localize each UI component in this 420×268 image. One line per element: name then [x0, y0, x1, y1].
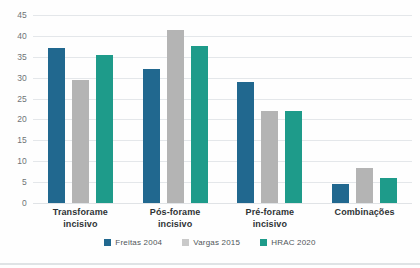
- y-axis-tick-35: 35: [17, 52, 27, 62]
- x-label-line-1: Combinações: [335, 207, 395, 217]
- x-axis-label-pre-forame-incisivo: Pré-forame incisivo: [223, 207, 318, 230]
- bar-hrac-2020-pre-forame[interactable]: [285, 111, 302, 203]
- bar-hrac-2020-pos-forame[interactable]: [191, 46, 208, 203]
- x-axis-label-pos-forame-incisivo: Pós-forame incisivo: [128, 207, 223, 230]
- bar-freitas-2004-pre-forame[interactable]: [237, 82, 254, 203]
- x-label-line-1: Pré-forame: [246, 207, 295, 217]
- legend-swatch-icon: [104, 239, 111, 246]
- bottom-divider: [0, 263, 420, 265]
- plot-area: 45 40 35 30 25 20 15 10 5 0: [33, 15, 412, 203]
- bar-group-pos-forame-incisivo: [128, 15, 223, 203]
- bar-freitas-2004-combinacoes[interactable]: [332, 184, 349, 203]
- legend-label: Freitas 2004: [115, 238, 162, 247]
- bar-chart: 45 40 35 30 25 20 15 10 5 0: [0, 0, 420, 268]
- y-axis-tick-20: 20: [17, 114, 27, 124]
- y-axis-tick-15: 15: [17, 135, 27, 145]
- x-axis-label-transforame-incisivo: Transforame incisivo: [33, 207, 128, 230]
- bar-group-combinacoes: [317, 15, 412, 203]
- y-axis-tick-10: 10: [17, 156, 27, 166]
- x-label-line-1: Pós-forame: [150, 207, 201, 217]
- legend-label: HRAC 2020: [271, 238, 316, 247]
- x-axis-labels: Transforame incisivo Pós-forame incisivo…: [33, 207, 412, 230]
- legend-swatch-icon: [260, 239, 267, 246]
- bar-vargas-2015-pos-forame[interactable]: [167, 30, 184, 203]
- y-axis-tick-45: 45: [17, 10, 27, 20]
- bar-freitas-2004-transforame[interactable]: [48, 48, 65, 203]
- bar-group-pre-forame-incisivo: [223, 15, 318, 203]
- chart-legend: Freitas 2004 Vargas 2015 HRAC 2020: [0, 238, 420, 247]
- bar-groups: [33, 15, 412, 203]
- legend-item-hrac-2020[interactable]: HRAC 2020: [260, 238, 316, 247]
- y-axis-tick-30: 30: [17, 73, 27, 83]
- legend-label: Vargas 2015: [193, 238, 240, 247]
- y-axis-tick-25: 25: [17, 94, 27, 104]
- bar-freitas-2004-pos-forame[interactable]: [143, 69, 160, 203]
- legend-item-vargas-2015[interactable]: Vargas 2015: [182, 238, 240, 247]
- legend-item-freitas-2004[interactable]: Freitas 2004: [104, 238, 162, 247]
- y-axis-tick-5: 5: [22, 177, 27, 187]
- x-axis-label-combinacoes: Combinações: [317, 207, 412, 230]
- x-label-line-2: incisivo: [223, 219, 318, 231]
- bar-group-transforame-incisivo: [33, 15, 128, 203]
- bar-vargas-2015-combinacoes[interactable]: [356, 168, 373, 204]
- bar-vargas-2015-pre-forame[interactable]: [261, 111, 278, 203]
- y-axis-tick-40: 40: [17, 31, 27, 41]
- bar-hrac-2020-transforame[interactable]: [96, 55, 113, 203]
- legend-swatch-icon: [182, 239, 189, 246]
- gridline-0: 0: [33, 203, 412, 204]
- x-label-line-2: incisivo: [33, 219, 128, 231]
- bar-hrac-2020-combinacoes[interactable]: [380, 178, 397, 203]
- x-label-line-1: Transforame: [53, 207, 108, 217]
- y-axis-tick-0: 0: [22, 198, 27, 208]
- bar-vargas-2015-transforame[interactable]: [72, 80, 89, 203]
- x-label-line-2: incisivo: [128, 219, 223, 231]
